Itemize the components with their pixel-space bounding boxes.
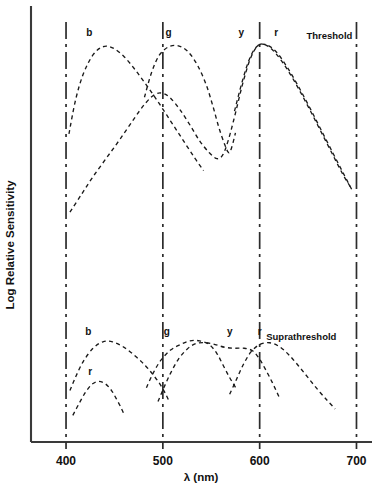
curve-label-suprathreshold-y: y: [227, 326, 233, 337]
axis-spines-group: [31, 6, 372, 442]
data-curves-group: [69, 44, 352, 415]
y-axis-title: Log Relative Sensitivity: [4, 180, 16, 310]
curve-label-threshold-y: y: [238, 27, 244, 38]
curve-suprathreshold-g: [146, 340, 236, 388]
figure-container: bygrbgyrr ThresholdSuprathreshold 400500…: [0, 0, 377, 489]
x-tick-labels-group: 400500600700: [56, 454, 367, 468]
curve-label-suprathreshold-r-short: r: [88, 366, 92, 377]
x-tick-label-700: 700: [346, 454, 366, 468]
x-tick-label-600: 600: [250, 454, 270, 468]
curve-threshold-y: [70, 44, 351, 212]
curve-suprathreshold-y: [158, 343, 279, 402]
section-label-suprathreshold: Suprathreshold: [266, 331, 336, 342]
x-axis-title: λ (nm): [184, 471, 219, 483]
gridlines-group: [66, 22, 356, 442]
section-label-threshold: Threshold: [306, 30, 352, 41]
curve-threshold-b: [69, 46, 204, 170]
curve-suprathreshold-r-short: [73, 381, 124, 415]
curve-label-threshold-b: b: [86, 27, 92, 38]
curve-label-suprathreshold-r: r: [258, 326, 262, 337]
section-labels-group: ThresholdSuprathreshold: [266, 30, 352, 342]
curve-threshold-g: [144, 45, 235, 152]
curve-label-suprathreshold-g: g: [164, 326, 170, 337]
curve-suprathreshold-r: [230, 343, 336, 409]
curve-labels-group: bygrbgyrr: [85, 27, 278, 377]
x-tick-label-400: 400: [56, 454, 76, 468]
x-tick-label-500: 500: [153, 454, 173, 468]
curve-threshold-r: [235, 44, 352, 189]
curve-label-suprathreshold-b: b: [85, 326, 91, 337]
curve-label-threshold-r: r: [274, 27, 278, 38]
curve-label-threshold-g: g: [166, 27, 172, 38]
chart-svg: bygrbgyrr ThresholdSuprathreshold 400500…: [0, 0, 377, 489]
